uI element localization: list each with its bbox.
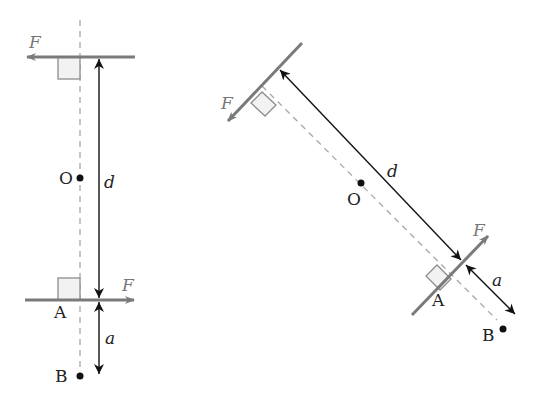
right-distance-a-label: a: [492, 270, 502, 290]
right-force-bottom-label: F: [472, 220, 486, 240]
left-point-b-dot: [77, 373, 84, 380]
left-right-angle-bottom: [58, 278, 80, 300]
right-point-o-label: O: [347, 189, 361, 209]
left-point-b-label: B: [55, 366, 68, 386]
right-point-b-label: B: [482, 325, 495, 345]
right-dashed-axis: [262, 86, 497, 320]
left-point-o-label: O: [59, 168, 73, 188]
left-point-a-label: A: [53, 302, 67, 322]
left-force-top-label: F: [28, 32, 42, 52]
left-distance-a-label: a: [105, 328, 115, 348]
right-distance-d-arrow: [280, 70, 461, 260]
right-point-b-dot: [500, 326, 507, 333]
left-right-angle-top: [58, 57, 80, 79]
left-distance-d-label: d: [104, 172, 115, 192]
right-force-top-label: F: [220, 93, 234, 113]
left-figure: F F O d A a B: [25, 20, 135, 386]
right-distance-a-arrow: [466, 265, 515, 314]
left-force-bottom-label: F: [121, 275, 135, 295]
couple-diagram: F F O d A a B F F O d A a B: [0, 0, 538, 395]
right-point-a-label: A: [431, 290, 445, 310]
right-figure: F F O d A a B: [220, 43, 515, 345]
left-point-o-dot: [77, 175, 84, 182]
right-point-o-dot: [358, 180, 365, 187]
right-distance-d-label: d: [387, 161, 398, 181]
